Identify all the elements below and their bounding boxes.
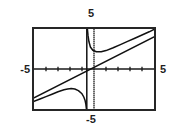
- x-axis-min-label: -5: [4, 64, 30, 75]
- graph-figure: 5 -5 5 -5: [0, 0, 182, 135]
- x-axis-max-label: 5: [160, 64, 180, 75]
- curve-rational-curve-left-branch: [34, 89, 86, 109]
- y-axis-min-label: -5: [0, 114, 182, 125]
- y-axis-max-label: 5: [0, 8, 182, 19]
- plot-canvas: [34, 29, 154, 109]
- curve-rational-curve-right-branch: [87, 29, 154, 52]
- plot-frame: [32, 27, 156, 111]
